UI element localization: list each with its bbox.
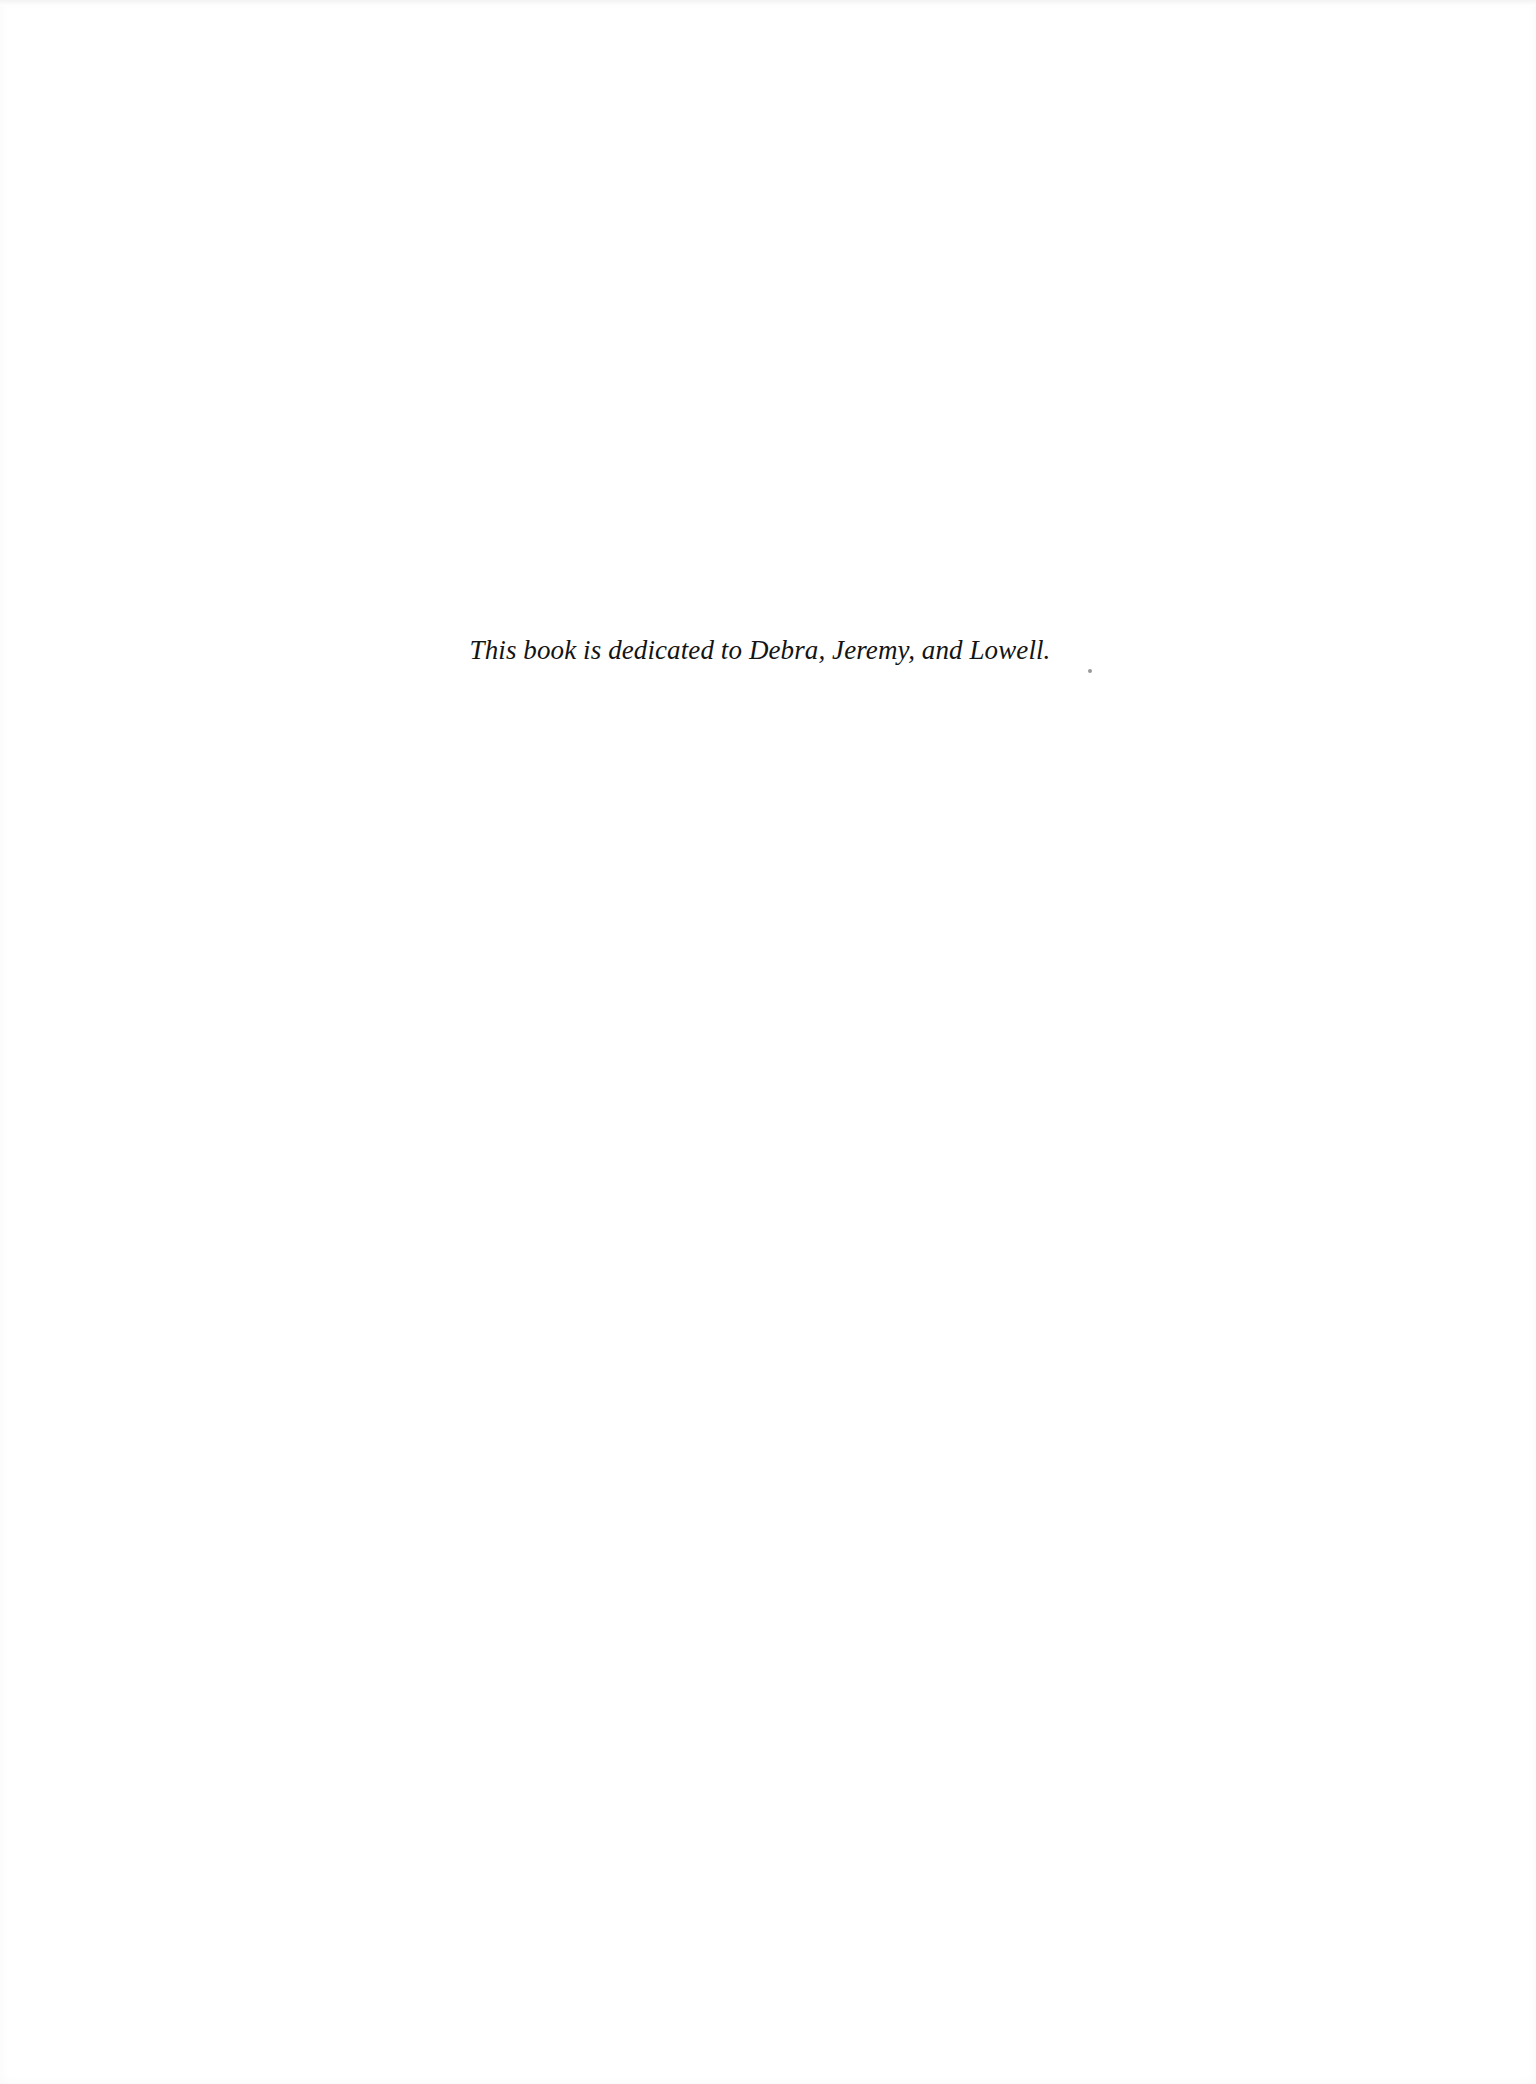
- dedication-text: This book is dedicated to Debra, Jeremy,…: [0, 635, 1520, 666]
- scan-edge: [0, 0, 1536, 6]
- scan-speck: [1088, 669, 1092, 673]
- book-page: This book is dedicated to Debra, Jeremy,…: [0, 0, 1536, 2084]
